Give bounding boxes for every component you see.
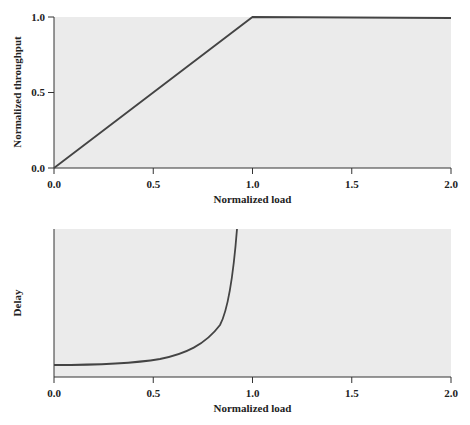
y-tick-label: 1.0 bbox=[31, 11, 45, 23]
x-tick-label: 0.5 bbox=[146, 178, 160, 190]
x-tick-label: 2.0 bbox=[444, 387, 458, 399]
y-axis-label: Normalized throughput bbox=[11, 36, 23, 148]
x-axis-label: Normalized load bbox=[214, 193, 292, 205]
x-tick-label: 0.0 bbox=[47, 178, 61, 190]
x-tick-label: 1.5 bbox=[345, 387, 359, 399]
plot-area bbox=[54, 17, 451, 168]
x-tick-label: 1.0 bbox=[246, 387, 260, 399]
y-tick-label: 0.5 bbox=[31, 86, 45, 98]
x-tick-label: 1.0 bbox=[246, 178, 260, 190]
y-tick-label: 0.0 bbox=[31, 162, 45, 174]
delay-chart: 0.0 0.5 1.0 1.5 2.0 Normalized load Dela… bbox=[11, 229, 458, 414]
chart-figure: 1.0 0.5 0.0 0.0 0.5 1.0 1.5 2.0 Normaliz… bbox=[0, 0, 470, 425]
x-tick-label: 1.5 bbox=[345, 178, 359, 190]
throughput-chart: 1.0 0.5 0.0 0.0 0.5 1.0 1.5 2.0 Normaliz… bbox=[11, 11, 458, 205]
x-tick-label: 2.0 bbox=[444, 178, 458, 190]
x-axis-label: Normalized load bbox=[214, 402, 292, 414]
x-tick-label: 0.5 bbox=[146, 387, 160, 399]
plot-area bbox=[54, 229, 451, 377]
y-axis-label: Delay bbox=[11, 289, 23, 316]
x-tick-label: 0.0 bbox=[47, 387, 61, 399]
